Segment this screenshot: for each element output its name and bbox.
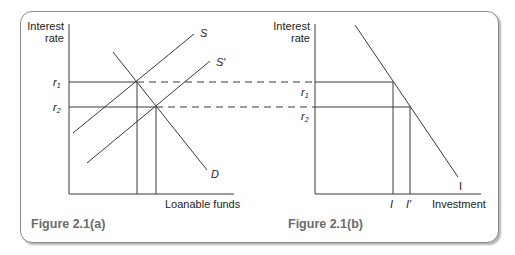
label-d: D [211,168,219,180]
right-x-tick-i: I [390,198,393,210]
left-ylabel-line2: rate [22,32,64,44]
right-r2-tick: r2 [301,110,309,126]
supply-curve-s [73,34,194,133]
right-x-tick-i-prime: I′ [406,198,411,210]
demand-curve-d [113,52,207,170]
right-x-axis-label: Investment [432,198,486,210]
label-s: S [200,27,207,39]
right-y-axis-label: Interest rate [264,20,310,44]
label-s-prime: S′ [216,56,225,68]
left-x-axis-label: Loanable funds [165,198,240,210]
investment-curve [355,25,458,177]
caption-figure-b: Figure 2.1(b) [288,217,363,231]
left-y-axis-label: Interest rate [22,20,64,44]
right-ylabel-line2: rate [264,32,310,44]
right-r1-tick: r1 [301,86,309,102]
caption-figure-a: Figure 2.1(a) [31,217,105,231]
left-ylabel-line1: Interest [22,20,64,32]
label-investment-curve: I [459,180,462,192]
right-ylabel-line1: Interest [264,20,310,32]
supply-curve-s-prime [87,61,210,163]
left-r2-tick: r2 [53,101,61,117]
left-r1-tick: r1 [53,76,61,92]
